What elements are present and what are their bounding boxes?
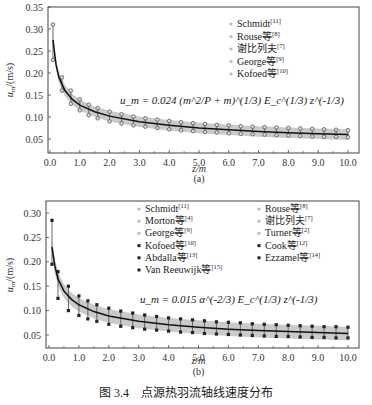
data-point [310, 127, 314, 131]
data-point [275, 133, 279, 137]
data-point [95, 303, 98, 306]
data-point [191, 331, 194, 334]
data-point [203, 122, 207, 126]
x-tick-label: 7.0 [252, 157, 265, 168]
legend-marker [138, 244, 141, 247]
data-point [155, 329, 158, 332]
x-tick-label: 8.0 [282, 157, 295, 168]
x-tick-label: 7.0 [252, 352, 265, 363]
data-point [251, 125, 255, 129]
data-point [346, 336, 349, 339]
data-point [191, 129, 195, 133]
data-point [263, 133, 267, 137]
data-point [334, 135, 338, 139]
legend-entry: 谢比列夫[7] [237, 42, 285, 54]
data-point [334, 336, 337, 339]
data-point [263, 323, 266, 326]
y-tick-label: 0.30 [24, 208, 42, 219]
data-point [87, 113, 91, 117]
data-point [346, 128, 350, 132]
data-point [131, 311, 134, 314]
data-point [155, 126, 159, 130]
data-point [60, 89, 64, 93]
data-point [239, 321, 242, 324]
data-point [251, 132, 255, 136]
data-point [119, 325, 122, 328]
data-point [144, 117, 148, 121]
data-point [167, 119, 171, 123]
data-point [227, 124, 231, 128]
legend-entry: Abdalla等[13] [145, 251, 198, 263]
y-tick-label: 0.20 [24, 256, 42, 267]
x-tick-label: 2.0 [103, 157, 116, 168]
legend-marker [137, 232, 140, 235]
data-point [299, 134, 303, 138]
legend-marker [229, 35, 232, 38]
data-point [86, 317, 89, 320]
x-tick-label: 4.0 [163, 157, 176, 168]
data-point [143, 313, 146, 316]
figure-canvas: 0.01.02.03.04.05.06.07.08.09.010.00.050.… [0, 0, 372, 405]
data-point [191, 318, 194, 321]
y-tick-label: 0.35 [26, 2, 44, 13]
y-axis-label: um/(m/s) [4, 258, 17, 292]
legend-marker [229, 72, 232, 75]
data-point [203, 130, 207, 134]
data-point [69, 89, 73, 93]
data-point [179, 330, 182, 333]
x-tick-label: 2.0 [103, 352, 116, 363]
x-tick-label: 10.0 [339, 157, 357, 168]
data-point [191, 121, 195, 125]
data-point [275, 335, 278, 338]
x-tick-label: 6.0 [223, 157, 236, 168]
legend-entry: Van Reeuwijk等[15] [145, 263, 222, 275]
data-point [86, 299, 89, 302]
data-point [167, 329, 170, 332]
data-point [108, 110, 112, 114]
fit-equation: u_m = 0.024 (m^2/P + m)^(1/3) E_c^(1/3) … [120, 94, 344, 107]
x-tick-label: 0.0 [43, 352, 56, 363]
legend-marker [229, 60, 232, 63]
data-point [60, 76, 64, 80]
data-point [143, 328, 146, 331]
data-point [227, 131, 231, 135]
data-point [299, 335, 302, 338]
data-point [87, 103, 91, 107]
legend-entry: Rouse等[8] [237, 30, 280, 42]
y-tick-label: 0.10 [26, 112, 44, 123]
data-point [77, 314, 80, 317]
data-point [131, 326, 134, 329]
data-point [51, 23, 55, 27]
data-point [346, 326, 349, 329]
data-point [51, 58, 55, 62]
data-point [251, 322, 254, 325]
data-point [215, 320, 218, 323]
data-point [239, 132, 243, 136]
y-tick-label: 0.20 [26, 68, 44, 79]
data-point [144, 125, 148, 129]
data-point [322, 135, 326, 139]
data-point [311, 325, 314, 328]
chart-panel-b: 0.01.02.03.04.05.06.07.08.09.010.00.050.… [4, 201, 359, 378]
data-point [107, 307, 110, 310]
legend-entry: Rouse等[8] [265, 202, 308, 214]
data-point [322, 325, 325, 328]
x-tick-label: 9.0 [312, 157, 325, 168]
legend-entry: Schmidt[11] [237, 17, 281, 29]
legend-marker [137, 207, 140, 210]
x-tick-label: 3.0 [132, 352, 145, 363]
data-point [310, 135, 314, 139]
data-point [67, 285, 70, 288]
y-tick-label: 0.25 [26, 46, 44, 57]
y-tick-label: 0.15 [24, 281, 42, 292]
x-tick-label: 4.0 [162, 352, 175, 363]
y-tick-label: 0.05 [24, 330, 42, 341]
y-tick-label: 0.30 [26, 24, 44, 35]
data-point [167, 128, 171, 132]
legend-marker [257, 207, 260, 210]
data-point [311, 336, 314, 339]
x-tick-label: 3.0 [133, 157, 146, 168]
data-point [155, 315, 158, 318]
legend-marker [258, 256, 261, 259]
data-point [119, 309, 122, 312]
